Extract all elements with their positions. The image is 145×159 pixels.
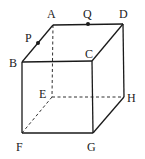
edge-DH	[123, 24, 124, 97]
label-H: H	[127, 91, 136, 105]
edge-EF	[22, 97, 52, 133]
label-D: D	[119, 7, 128, 21]
edge-GH	[93, 97, 124, 133]
label-A: A	[47, 7, 56, 21]
label-C: C	[85, 47, 93, 61]
label-B: B	[9, 56, 17, 70]
label-G: G	[87, 140, 96, 154]
label-P: P	[25, 31, 32, 45]
point-Q-dot	[86, 22, 90, 26]
label-Q: Q	[83, 7, 92, 21]
edge-BC	[22, 61, 92, 62]
edge-CG	[92, 61, 93, 133]
label-E: E	[39, 87, 46, 101]
edge-CD	[92, 24, 123, 61]
cube-diagram: A Q D P B C E H F G	[0, 0, 145, 159]
label-F: F	[16, 140, 23, 154]
point-P-dot	[36, 41, 40, 45]
